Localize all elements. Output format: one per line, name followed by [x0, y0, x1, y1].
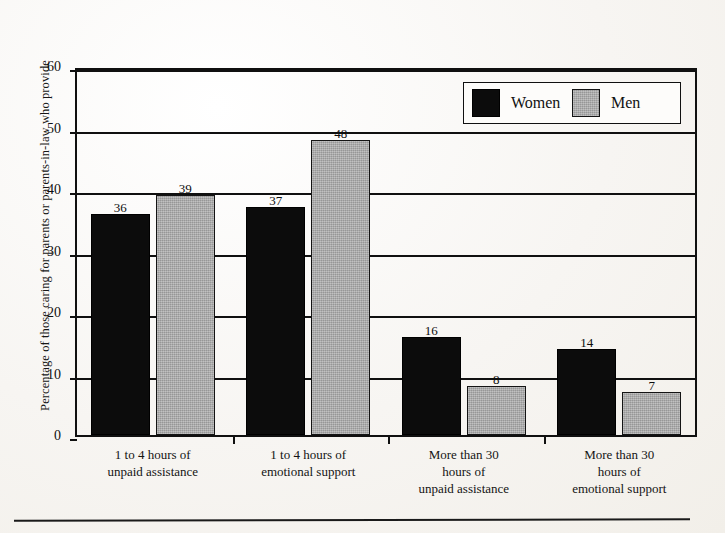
- x-tick-mark-0: [233, 435, 235, 444]
- category-label-line: 1 to 4 hours of: [75, 446, 231, 463]
- category-label-line: hours of: [386, 463, 542, 480]
- y-tick-mark-50: [70, 132, 77, 134]
- y-tick-mark-10: [70, 378, 77, 380]
- bar-value-label-men-group-2: 8: [467, 373, 526, 386]
- bar-women-group-1: [246, 207, 305, 435]
- bar-value-label-men-group-1: 48: [311, 127, 370, 140]
- bar-women-group-0: [91, 214, 150, 435]
- x-tick-mark-2: [544, 435, 546, 444]
- bar-value-label-women-group-3: 14: [557, 336, 616, 349]
- legend-item-men: Men: [572, 89, 672, 117]
- bar-value-label-women-group-1: 37: [246, 194, 305, 207]
- y-tick-label-10: 10: [23, 368, 61, 382]
- category-label-line: 1 to 4 hours of: [231, 446, 387, 463]
- x-axis-category-label-2: More than 30hours ofunpaid assistance: [386, 446, 542, 497]
- category-label-line: unpaid assistance: [386, 480, 542, 497]
- legend-label-women: Women: [511, 94, 560, 112]
- bar-women-group-3: [557, 349, 616, 435]
- x-axis-category-label-1: 1 to 4 hours ofemotional support: [231, 446, 387, 480]
- category-label-line: hours of: [542, 463, 698, 480]
- chart-legend: Women Men: [463, 82, 681, 124]
- y-tick-label-60: 60: [23, 60, 61, 74]
- y-tick-label-0: 0: [23, 429, 61, 443]
- gridline-50: [77, 132, 695, 134]
- bar-men-group-0: [156, 195, 215, 435]
- category-label-line: emotional support: [231, 463, 387, 480]
- legend-item-women: Women: [472, 89, 572, 117]
- plot-inner: 36393748168147: [77, 70, 695, 435]
- y-tick-label-30: 30: [23, 245, 61, 259]
- y-tick-label-40: 40: [23, 183, 61, 197]
- bar-value-label-men-group-3: 7: [622, 379, 681, 392]
- y-tick-mark-40: [70, 193, 77, 195]
- bar-value-label-women-group-2: 16: [402, 324, 461, 337]
- y-tick-label-20: 20: [23, 306, 61, 320]
- black-square-swatch-icon: [472, 89, 500, 117]
- bar-value-label-men-group-0: 39: [156, 182, 215, 195]
- bar-men-group-2: [467, 386, 526, 435]
- category-label-line: More than 30: [542, 446, 698, 463]
- bar-men-group-3: [622, 392, 681, 435]
- y-tick-label-50: 50: [23, 122, 61, 136]
- category-label-line: More than 30: [386, 446, 542, 463]
- bar-men-group-1: [311, 140, 370, 435]
- x-tick-mark-1: [388, 435, 390, 444]
- y-tick-mark-20: [70, 316, 77, 318]
- gray-square-swatch-icon: [572, 89, 600, 117]
- category-label-line: unpaid assistance: [75, 463, 231, 480]
- bar-value-label-women-group-0: 36: [91, 201, 150, 214]
- y-tick-mark-60: [70, 70, 77, 72]
- bar-women-group-2: [402, 337, 461, 435]
- gridline-60: [77, 70, 695, 72]
- legend-label-men: Men: [611, 94, 640, 112]
- y-tick-mark-30: [70, 255, 77, 257]
- y-tick-mark-0: [70, 439, 77, 441]
- x-axis-category-label-0: 1 to 4 hours ofunpaid assistance: [75, 446, 231, 480]
- x-axis-category-label-3: More than 30hours ofemotional support: [542, 446, 698, 497]
- category-label-line: emotional support: [542, 480, 698, 497]
